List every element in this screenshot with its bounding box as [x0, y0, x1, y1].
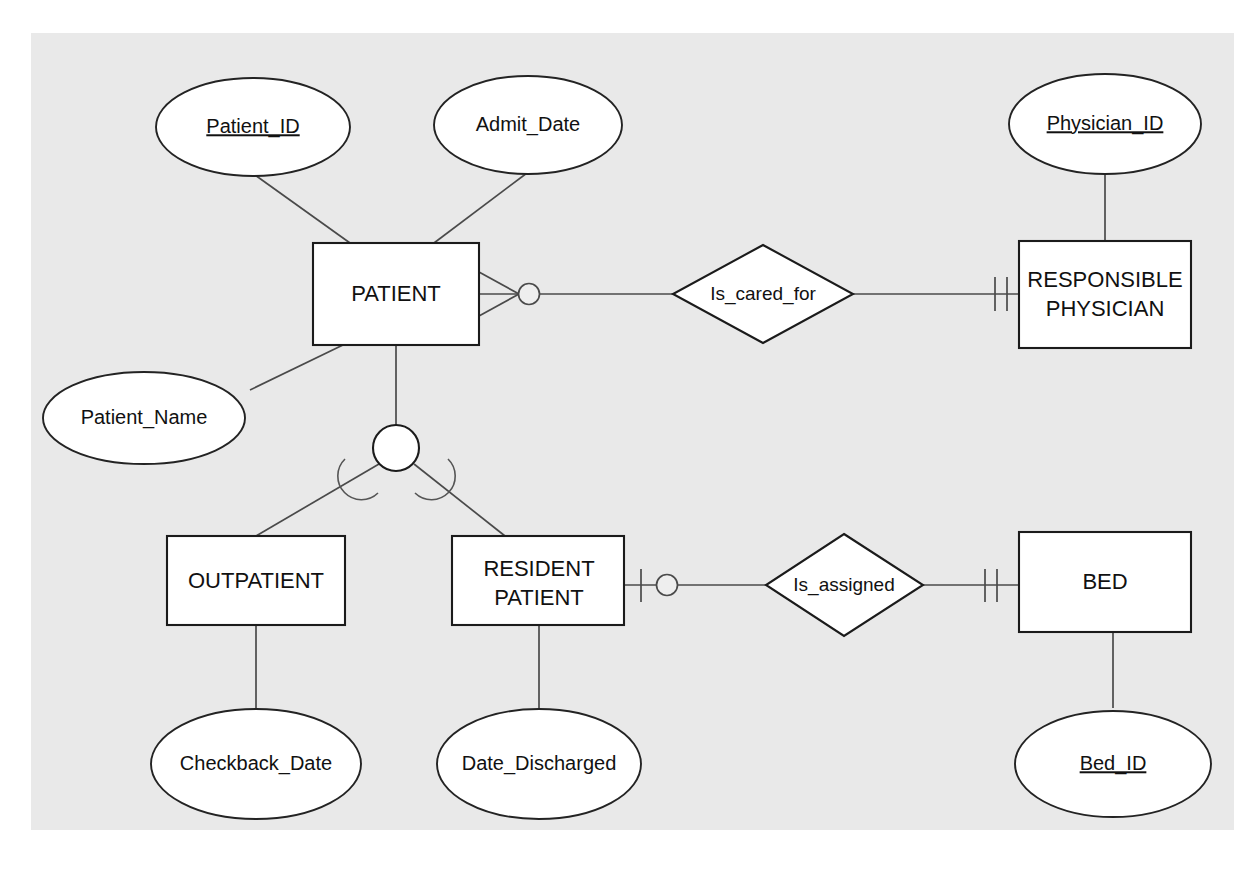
- attribute-bed-id[interactable]: Bed_ID: [1015, 711, 1211, 817]
- entity-label-line-2: PATIENT: [494, 585, 584, 610]
- entity-label: OUTPATIENT: [188, 568, 324, 593]
- attribute-checkback-date[interactable]: Checkback_Date: [151, 709, 361, 819]
- attribute-patient-id[interactable]: Patient_ID: [156, 78, 350, 176]
- attribute-admit-date[interactable]: Admit_Date: [434, 76, 622, 174]
- entity-box: [1019, 241, 1191, 348]
- attribute-label: Admit_Date: [476, 113, 581, 136]
- attribute-label: Physician_ID: [1047, 112, 1164, 135]
- entity-resident-patient[interactable]: RESIDENT PATIENT: [452, 536, 624, 625]
- attribute-label: Bed_ID: [1080, 752, 1147, 775]
- entity-outpatient[interactable]: OUTPATIENT: [167, 536, 345, 625]
- entity-label: PATIENT: [351, 281, 441, 306]
- optional-circle-patient-is-cared-for: [519, 284, 540, 305]
- relationship-label: Is_assigned: [793, 574, 894, 596]
- attribute-label: Checkback_Date: [180, 752, 332, 775]
- subtype-connector-circle: [373, 425, 419, 471]
- entity-label-line-1: RESIDENT: [483, 556, 594, 581]
- attribute-label: Patient_ID: [206, 115, 299, 138]
- attribute-patient-name[interactable]: Patient_Name: [43, 372, 245, 464]
- er-diagram-canvas: Patient_ID Admit_Date Patient_Name Physi…: [0, 0, 1258, 874]
- attribute-physician-id[interactable]: Physician_ID: [1009, 74, 1201, 174]
- attribute-label: Patient_Name: [81, 406, 208, 429]
- attribute-date-discharged[interactable]: Date_Discharged: [437, 709, 641, 819]
- entity-patient[interactable]: PATIENT: [313, 243, 479, 345]
- entity-label: BED: [1082, 569, 1127, 594]
- entity-label-line-1: RESPONSIBLE: [1027, 267, 1182, 292]
- er-diagram-svg: Patient_ID Admit_Date Patient_Name Physi…: [0, 0, 1258, 874]
- relationship-label: Is_cared_for: [710, 283, 816, 305]
- entity-responsible-physician[interactable]: RESPONSIBLE PHYSICIAN: [1019, 241, 1191, 348]
- entity-label-line-2: PHYSICIAN: [1046, 296, 1165, 321]
- entity-bed[interactable]: BED: [1019, 532, 1191, 632]
- attribute-label: Date_Discharged: [462, 752, 617, 775]
